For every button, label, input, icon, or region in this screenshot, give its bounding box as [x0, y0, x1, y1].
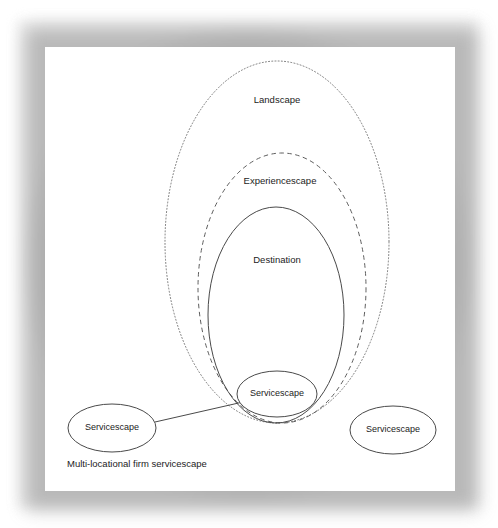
multi-location-caption: Multi-locational firm servicescape — [67, 458, 207, 469]
servicescape-right-label: Servicescape — [366, 424, 420, 434]
experiencescape-label: Experiencescape — [244, 175, 317, 186]
servicescape-inner-label: Servicescape — [250, 388, 304, 398]
diagram-page: Landscape Experiencescape Destination Se… — [0, 0, 498, 528]
multi-location-connector-line — [155, 402, 243, 422]
servicescape-left-label: Servicescape — [85, 422, 139, 432]
nested-ellipse-diagram: Landscape Experiencescape Destination Se… — [0, 0, 498, 528]
landscape-label: Landscape — [254, 94, 300, 105]
destination-label: Destination — [253, 254, 301, 265]
landscape-ellipse — [165, 61, 389, 423]
